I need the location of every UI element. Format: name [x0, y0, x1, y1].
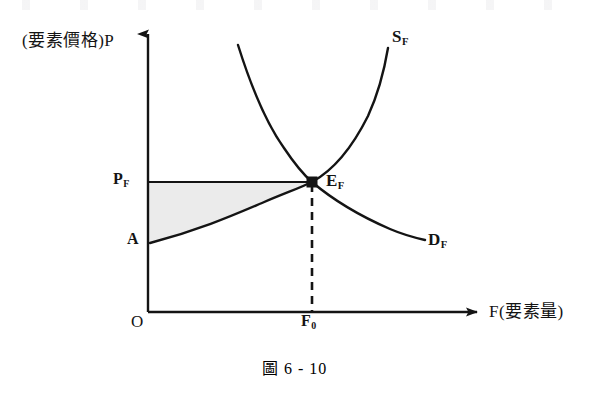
equilibrium-point-label: EF — [326, 172, 344, 189]
quantity-equilibrium-base: F — [301, 312, 311, 329]
supply-curve-label: SF — [392, 28, 408, 45]
quantity-equilibrium-subscript: 0 — [311, 320, 316, 331]
factor-market-diagram — [0, 0, 596, 397]
equilibrium-label-base: E — [326, 171, 337, 190]
y-axis-title: (要素價格)P — [22, 32, 114, 49]
figure-caption: 圖 6 - 10 — [262, 355, 327, 379]
supply-label-base: S — [392, 27, 401, 46]
producer-surplus-region — [148, 182, 312, 243]
supply-intercept-label: A — [127, 231, 139, 247]
price-equilibrium-subscript: F — [123, 178, 129, 189]
origin-label: O — [131, 313, 143, 330]
price-equilibrium-base: P — [113, 170, 123, 187]
demand-label-subscript: F — [441, 239, 447, 250]
equilibrium-point-marker — [307, 177, 318, 188]
demand-label-base: D — [428, 230, 440, 249]
demand-curve-label: DF — [428, 231, 447, 248]
x-axis-title: F(要素量) — [489, 303, 564, 320]
demand-curve — [238, 45, 425, 240]
supply-label-subscript: F — [402, 36, 408, 47]
equilibrium-label-subscript: F — [338, 180, 344, 191]
price-equilibrium-label: PF — [113, 171, 129, 187]
quantity-equilibrium-label: F0 — [301, 313, 316, 329]
figure-container: (要素價格)P F(要素量) O PF A F0 EF SF DF 圖 6 - … — [0, 0, 596, 397]
